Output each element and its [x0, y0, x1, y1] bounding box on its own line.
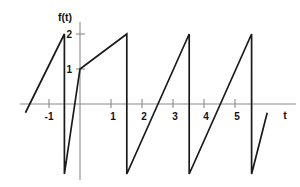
- x-axis-label: t: [283, 109, 287, 121]
- x-tick-label-4: 4: [203, 111, 209, 122]
- x-tick-label-5: 5: [234, 111, 240, 122]
- chart-figure: -1 1 2 3 4 5 1 2 f(t) t: [0, 0, 300, 187]
- y-tick-label-1: 1: [66, 64, 72, 75]
- x-tick-label-1: 1: [110, 111, 116, 122]
- x-tick-label-2: 2: [141, 111, 147, 122]
- x-tick-label-3: 3: [172, 111, 178, 122]
- y-tick-label-2: 2: [66, 29, 72, 40]
- sawtooth-wave-plot: -1 1 2 3 4 5 1 2 f(t) t: [0, 0, 300, 187]
- x-tick-label--1: -1: [45, 111, 54, 122]
- y-axis-label: f(t): [58, 11, 72, 23]
